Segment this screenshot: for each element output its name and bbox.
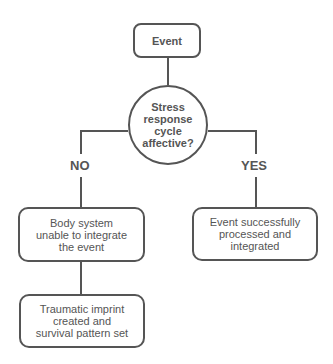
decision-node-label: Stress response cycle affective?: [142, 101, 193, 149]
start-node-event: Event: [133, 23, 201, 58]
connector-decision-to-no: [81, 131, 128, 154]
no-result-label: Body system unable to integrate the even…: [36, 217, 127, 253]
start-node-label: Event: [152, 35, 182, 47]
no-result-node: Body system unable to integrate the even…: [18, 207, 145, 262]
yes-result-node: Event successfully processed and integra…: [192, 207, 318, 261]
no-outcome-node: Traumatic imprint created and survival p…: [19, 294, 145, 348]
yes-result-label: Event successfully processed and integra…: [210, 216, 300, 252]
no-outcome-label: Traumatic imprint created and survival p…: [36, 303, 128, 339]
branch-label-yes: YES: [241, 158, 267, 173]
connector-decision-to-yes: [208, 131, 256, 154]
decision-node: Stress response cycle affective?: [128, 85, 208, 165]
branch-label-no: NO: [70, 158, 90, 173]
